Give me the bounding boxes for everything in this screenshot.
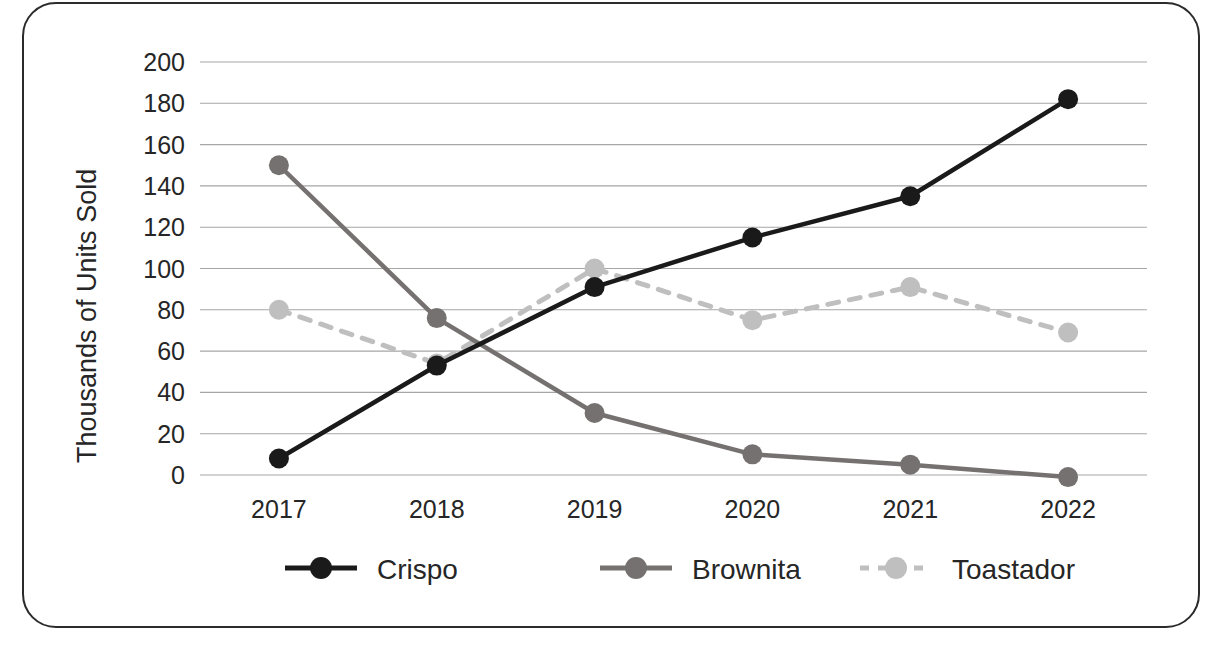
data-point[interactable] bbox=[585, 277, 605, 297]
data-point[interactable] bbox=[742, 228, 762, 248]
data-point[interactable] bbox=[742, 310, 762, 330]
y-axis-tick-label: 40 bbox=[157, 378, 185, 406]
y-axis-tick-label: 80 bbox=[157, 296, 185, 324]
x-axis-tick-label: 2020 bbox=[725, 495, 781, 523]
data-point[interactable] bbox=[269, 448, 289, 468]
y-axis-tick-labels: 020406080100120140160180200 bbox=[143, 48, 185, 489]
legend-label: Toastador bbox=[952, 554, 1075, 585]
series-line bbox=[279, 165, 1068, 477]
data-point[interactable] bbox=[1058, 323, 1078, 343]
y-axis-tick-label: 60 bbox=[157, 337, 185, 365]
x-axis-tick-label: 2022 bbox=[1040, 495, 1096, 523]
legend-marker bbox=[625, 557, 647, 579]
data-point[interactable] bbox=[1058, 467, 1078, 487]
legend-item-crispo[interactable]: Crispo bbox=[285, 554, 458, 585]
y-axis-title: Thousands of Units Sold bbox=[72, 169, 102, 463]
legend-item-brownita[interactable]: Brownita bbox=[600, 554, 801, 585]
series-brownita bbox=[269, 155, 1078, 487]
x-axis-tick-label: 2018 bbox=[409, 495, 465, 523]
legend-item-toastador[interactable]: Toastador bbox=[860, 554, 1075, 585]
data-point[interactable] bbox=[269, 300, 289, 320]
line-chart: 020406080100120140160180200 201720182019… bbox=[0, 0, 1218, 660]
y-axis-tick-label: 0 bbox=[171, 461, 185, 489]
series-layer bbox=[269, 89, 1078, 487]
data-point[interactable] bbox=[269, 155, 289, 175]
series-crispo bbox=[269, 89, 1078, 468]
legend-label: Crispo bbox=[377, 554, 458, 585]
x-axis-tick-labels: 201720182019202020212022 bbox=[251, 495, 1096, 523]
legend-marker bbox=[885, 557, 907, 579]
y-axis-tick-label: 140 bbox=[143, 172, 185, 200]
data-point[interactable] bbox=[900, 455, 920, 475]
y-axis-tick-label: 100 bbox=[143, 255, 185, 283]
y-axis-tick-label: 120 bbox=[143, 213, 185, 241]
x-axis-tick-label: 2021 bbox=[882, 495, 938, 523]
y-axis-tick-label: 160 bbox=[143, 131, 185, 159]
data-point[interactable] bbox=[427, 356, 447, 376]
chart-canvas: 020406080100120140160180200 201720182019… bbox=[0, 0, 1218, 660]
x-axis-tick-label: 2017 bbox=[251, 495, 307, 523]
gridlines bbox=[200, 62, 1147, 475]
data-point[interactable] bbox=[742, 444, 762, 464]
x-axis-tick-label: 2019 bbox=[567, 495, 623, 523]
data-point[interactable] bbox=[1058, 89, 1078, 109]
y-axis-tick-label: 20 bbox=[157, 420, 185, 448]
data-point[interactable] bbox=[585, 259, 605, 279]
chart-legend: CrispoBrownitaToastador bbox=[285, 554, 1075, 585]
y-axis-tick-label: 200 bbox=[143, 48, 185, 76]
data-point[interactable] bbox=[585, 403, 605, 423]
data-point[interactable] bbox=[427, 308, 447, 328]
legend-label: Brownita bbox=[692, 554, 801, 585]
data-point[interactable] bbox=[900, 277, 920, 297]
legend-marker bbox=[310, 557, 332, 579]
y-axis-tick-label: 180 bbox=[143, 89, 185, 117]
data-point[interactable] bbox=[900, 186, 920, 206]
